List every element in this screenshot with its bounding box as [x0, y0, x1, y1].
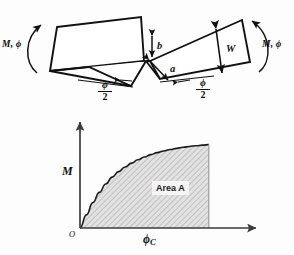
right-angle-numerator: ϕ	[196, 78, 210, 88]
left-plate	[50, 17, 144, 71]
figure-canvas	[0, 0, 294, 255]
left-plate-outline	[50, 17, 144, 71]
figure-root: M, ϕ M, ϕ b a W ϕ 2 ϕ 2 M O ϕC Area A	[0, 0, 294, 255]
x-axis-label-subscript: C	[150, 237, 156, 247]
area-a-annotation: Area A	[152, 181, 189, 195]
left-angle-denominator: 2	[98, 92, 112, 102]
left-moment-arrow	[28, 25, 41, 73]
right-moment-label: M, ϕ	[262, 40, 282, 50]
x-axis-label-main: ϕ	[143, 232, 150, 246]
notch-flank-label-a: a	[170, 64, 175, 75]
y-axis-label: M	[62, 165, 73, 177]
right-angle-denominator: 2	[196, 90, 210, 100]
plate-width-label-w: W	[226, 44, 235, 55]
left-moment-label: M, ϕ	[2, 40, 22, 50]
left-moment-arc	[28, 25, 41, 73]
left-angle-numerator: ϕ	[98, 80, 112, 90]
left-angle-label-phi-over-2: ϕ 2	[98, 80, 112, 102]
x-axis-label: ϕC	[143, 233, 156, 247]
notch-depth-label-b: b	[157, 41, 162, 52]
right-angle-label-phi-over-2: ϕ 2	[196, 78, 210, 100]
origin-label: O	[69, 230, 75, 239]
